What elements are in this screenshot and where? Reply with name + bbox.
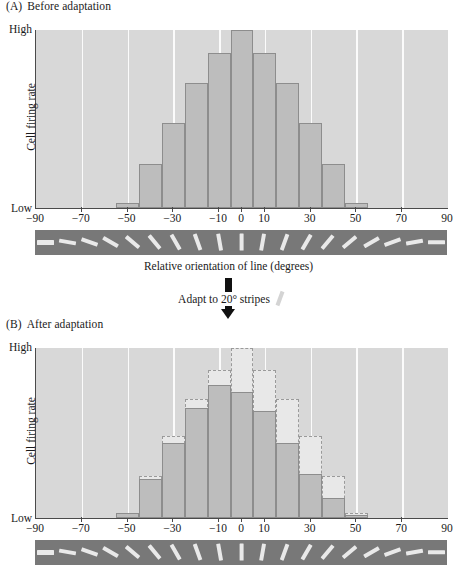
- panel-a-label: (A): [6, 0, 22, 12]
- x-tick-mark: [355, 207, 356, 212]
- x-axis-ticks-a: −90−70−50−30−1001030507090: [35, 212, 447, 228]
- histogram-bar: [139, 479, 162, 518]
- chart-plot-area-a: High Low Cell firing rate: [35, 30, 448, 209]
- orientation-line-segment: [125, 235, 141, 249]
- histogram-bar: [162, 443, 185, 518]
- y-axis-high-label-b: High: [9, 342, 32, 354]
- histogram-bar: [299, 474, 322, 518]
- x-tick-label: 70: [395, 212, 407, 224]
- panel-after-adaptation: (B)After adaptation High Low Cell firing…: [0, 318, 457, 583]
- x-tick-label: 30: [304, 522, 316, 534]
- orientation-line-segment: [37, 240, 54, 244]
- x-tick-label: −30: [163, 522, 181, 534]
- orientation-line-segment: [259, 234, 266, 251]
- panel-b-label: (B): [6, 318, 22, 330]
- x-tick-label: 50: [350, 212, 362, 224]
- orientation-line-segment: [428, 550, 445, 554]
- x-tick-mark: [127, 207, 128, 212]
- histogram-bar: [276, 83, 299, 208]
- x-tick-mark: [401, 517, 402, 522]
- x-tick-label: 50: [350, 522, 362, 534]
- orientation-line-segment: [102, 546, 119, 558]
- orientation-line-segment: [342, 545, 358, 559]
- gridline: [128, 348, 129, 518]
- orientation-line-segment: [125, 545, 141, 559]
- orientation-line-segment: [147, 235, 161, 251]
- x-tick-label: −90: [26, 212, 44, 224]
- y-axis-high-label-a: High: [9, 24, 32, 36]
- x-tick-mark: [310, 207, 311, 212]
- orientation-line-segment: [216, 234, 223, 251]
- orientation-line-segment: [170, 234, 182, 251]
- histogram-bar: [208, 385, 231, 518]
- histogram-bar: [322, 164, 345, 209]
- y-axis-title-b: Cell firing rate: [25, 371, 37, 491]
- panel-before-adaptation: (A)Before adaptation High Low Cell firin…: [0, 0, 457, 288]
- gridline: [82, 30, 83, 208]
- orientation-line-segment: [80, 238, 97, 248]
- x-tick-label: −70: [72, 212, 90, 224]
- y-axis-title-a: Cell firing rate: [25, 57, 37, 177]
- gridline: [356, 30, 357, 208]
- orientation-line-segment: [259, 544, 266, 561]
- histogram-bar: [116, 203, 139, 208]
- histogram-bar: [231, 30, 254, 208]
- orientation-line-segment: [147, 545, 161, 561]
- orientation-line-segment: [193, 234, 203, 251]
- panel-b-title-text: After adaptation: [27, 318, 104, 330]
- histogram-bar: [139, 164, 162, 209]
- x-tick-label: −50: [118, 522, 136, 534]
- histogram-bar: [185, 83, 208, 208]
- x-tick-label: 70: [395, 522, 407, 534]
- orientation-line-segment: [321, 545, 335, 561]
- gridline: [128, 30, 129, 208]
- orientation-line-segment: [342, 235, 358, 249]
- histogram-bar: [253, 53, 276, 208]
- histogram-bar: [208, 53, 231, 208]
- adapt-caption: Adapt to 20° stripes: [0, 291, 457, 306]
- x-axis-title-a: Relative orientation of line (degrees): [0, 260, 457, 272]
- histogram-bar: [185, 408, 208, 519]
- x-tick-mark: [264, 207, 265, 212]
- orientation-line-segment: [216, 544, 223, 561]
- orientation-line-segment: [363, 546, 380, 558]
- orientation-line-segment: [59, 239, 76, 246]
- x-tick-mark: [241, 207, 242, 212]
- orientation-line-segment: [300, 234, 312, 251]
- gridline: [402, 30, 403, 208]
- x-tick-mark: [172, 207, 173, 212]
- orientation-line-segment: [239, 544, 243, 561]
- orientation-line-segment: [37, 550, 54, 554]
- histogram-bar: [345, 203, 368, 208]
- orientation-strip-a: [35, 230, 447, 255]
- x-tick-label: −70: [72, 522, 90, 534]
- x-tick-label: 10: [258, 212, 270, 224]
- orientation-line-segment: [102, 236, 119, 248]
- histogram-bar: [231, 392, 254, 518]
- orientation-strip-b: [35, 540, 447, 565]
- x-tick-label: −10: [209, 522, 227, 534]
- x-tick-mark: [401, 207, 402, 212]
- orientation-line-segment: [239, 234, 243, 251]
- histogram-bar: [276, 443, 299, 518]
- orientation-line-segment: [300, 544, 312, 561]
- x-tick-mark: [81, 517, 82, 522]
- x-tick-label: 30: [304, 212, 316, 224]
- histogram-bar: [116, 513, 139, 518]
- orientation-line-segment: [406, 549, 423, 556]
- x-tick-mark: [218, 207, 219, 212]
- panel-b-title: (B)After adaptation: [6, 318, 103, 330]
- orientation-line-segment: [59, 549, 76, 556]
- orientation-line-segment: [80, 548, 97, 558]
- x-axis-ticks-b: −90−70−50−30−1001030507090: [35, 522, 447, 538]
- orientation-line-segment: [428, 240, 445, 244]
- histogram-bar: [299, 123, 322, 208]
- gridline: [402, 348, 403, 518]
- x-tick-mark: [81, 207, 82, 212]
- panel-a-title: (A)Before adaptation: [6, 0, 111, 12]
- orientation-line-segment: [170, 544, 182, 561]
- x-tick-label: 90: [441, 212, 453, 224]
- x-tick-label: 0: [238, 522, 244, 534]
- x-tick-label: 10: [258, 522, 270, 534]
- orientation-line-segment: [193, 544, 203, 561]
